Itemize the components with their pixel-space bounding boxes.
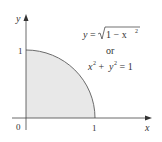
svg-text:y: y <box>82 29 88 40</box>
x-axis-arrow-icon <box>145 116 152 121</box>
origin-label: 0 <box>16 122 21 132</box>
svg-text:=: = <box>90 29 96 40</box>
equation-line-1: y = 1 − x 2 <box>82 27 140 40</box>
x-axis-label: x <box>144 122 150 133</box>
y-tick-label: 1 <box>18 46 23 56</box>
equation-line-3: x 2 + y 2 = 1 <box>87 60 133 72</box>
shaded-region <box>26 50 95 118</box>
quarter-circle-diagram: y x 0 1 1 y = 1 − x 2 or x 2 + y 2 = 1 <box>0 0 162 142</box>
svg-text:1 − x: 1 − x <box>106 29 127 40</box>
y-axis-label: y <box>15 13 21 24</box>
x-tick-label: 1 <box>92 123 97 133</box>
equation-line-2: or <box>106 45 115 56</box>
y-axis-arrow-icon <box>24 14 29 21</box>
svg-text:+: + <box>96 61 107 72</box>
svg-text:2: 2 <box>135 28 138 34</box>
svg-text:= 1: = 1 <box>117 61 133 72</box>
